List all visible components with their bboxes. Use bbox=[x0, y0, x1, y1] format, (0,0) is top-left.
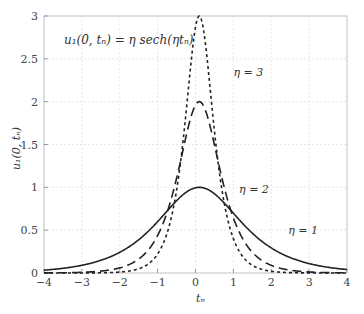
x-tick-label: −3 bbox=[74, 276, 90, 289]
y-axis-label: u₁(0, tₙ) bbox=[10, 127, 23, 170]
x-tick-label: 4 bbox=[344, 276, 351, 289]
x-axis-label: tₙ bbox=[196, 292, 205, 305]
y-tick-label: 0 bbox=[31, 267, 38, 280]
curve-label: η = 2 bbox=[239, 183, 269, 196]
y-tick-label: 3 bbox=[31, 10, 38, 23]
curve-labels: η = 3η = 2η = 1 bbox=[233, 66, 318, 237]
x-tick-label: 0 bbox=[192, 276, 199, 289]
x-tick-label: −1 bbox=[150, 276, 166, 289]
x-tick-label: −4 bbox=[36, 276, 52, 289]
y-tick-label: 2.5 bbox=[21, 53, 39, 66]
y-tick-label: 2 bbox=[31, 96, 38, 109]
axis-ticks: −4−3−2−10123400.511.522.53 bbox=[21, 10, 351, 289]
curve-label: η = 3 bbox=[233, 66, 263, 79]
y-tick-label: 0.5 bbox=[21, 224, 39, 237]
x-tick-label: 3 bbox=[306, 276, 313, 289]
chart: −4−3−2−10123400.511.522.53 η = 3η = 2η =… bbox=[0, 0, 364, 314]
curve-label: η = 1 bbox=[288, 224, 318, 237]
formula-annotation: u₁(0, tₙ) = η sech(ηtₙ) bbox=[64, 33, 194, 47]
y-tick-label: 1 bbox=[31, 181, 38, 194]
x-tick-label: 1 bbox=[230, 276, 237, 289]
x-tick-label: 2 bbox=[268, 276, 275, 289]
x-tick-label: −2 bbox=[112, 276, 128, 289]
y-tick-label: 1.5 bbox=[21, 139, 39, 152]
